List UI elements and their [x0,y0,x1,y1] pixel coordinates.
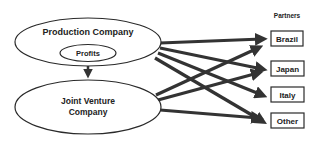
partner-label-italy: Italy [279,91,296,100]
partner-label-japan: Japan [276,65,299,74]
partner-label-brazil: Brazil [276,35,298,44]
joint-venture-label-line2: Company [69,107,108,117]
partner-box-japan: Japan [271,61,304,76]
partner-label-other: Other [277,117,298,126]
arrow-production-brazil [160,39,262,43]
partners-header: Partners [274,12,301,19]
partner-box-italy: Italy [271,87,304,102]
production-to-partner-arrows [155,39,262,121]
partner-box-brazil: Brazil [271,31,303,46]
production-company-label: Production Company [42,27,133,37]
joint-venture-label-line1: Joint Venture [61,96,115,106]
partnership-diagram: Production Company Profits Joint Venture… [0,0,322,142]
partner-box-other: Other [271,113,304,128]
profits-label: Profits [76,49,100,58]
